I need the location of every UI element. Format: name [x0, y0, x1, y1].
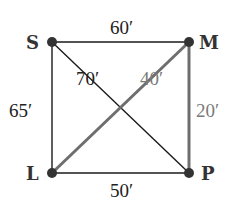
weight-label-l-p: 50′	[110, 180, 133, 201]
node-label-p: P	[201, 163, 215, 184]
node-label-l: L	[26, 163, 39, 184]
node-label-m: M	[199, 32, 219, 53]
weight-label-s-p: 70′	[76, 68, 99, 89]
weight-label-s-m: 60′	[110, 17, 133, 38]
weight-label-s-l: 65′	[9, 100, 32, 121]
weight-label-l-m: 40′	[140, 68, 163, 89]
node-s-dot	[47, 37, 57, 47]
weight-label-m-p: 20′	[196, 100, 219, 121]
node-l-dot	[47, 168, 57, 178]
node-label-s: S	[26, 32, 39, 53]
node-p-dot	[184, 168, 194, 178]
node-m-dot	[184, 37, 194, 47]
weighted-graph-diagram: S M L P 60′ 65′ 70′ 50′ 40′ 20′	[0, 0, 238, 208]
